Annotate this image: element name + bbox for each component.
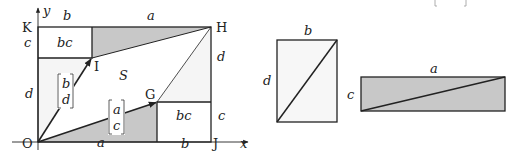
point-J-label: J [211,136,218,151]
rect-ac-top-label: a [430,61,438,76]
vector-bd-matrix: b d [57,73,74,109]
rect-bd-top-label: b [304,23,312,38]
vector-ac-top: a [113,102,121,117]
point-K-label: K [22,20,32,35]
bottom-right-segment-label: b [181,136,189,151]
region-S-label: S [119,68,128,83]
vector-bd-top: b [62,76,70,91]
rect-bd-side-label: d [263,73,271,88]
point-O-label: O [22,136,33,151]
diagram-canvas: y x K H O J I G b a a b c d d c bc bc S … [0,0,511,152]
cropped-fragment [435,0,466,6]
point-I-label: I [94,59,99,74]
left-lower-side-label: d [25,86,33,101]
x-axis-label: x [240,136,248,151]
vector-bd-bottom: d [62,92,70,107]
left-upper-side-label: c [24,35,32,50]
point-H-label: H [216,20,227,35]
right-upper-side-label: d [217,49,225,64]
top-right-segment-label: a [147,8,155,23]
vector-ac-bottom: c [113,118,121,133]
point-G-label: G [145,87,155,102]
bottom-right-box-label: bc [176,108,192,123]
top-left-box-label: bc [57,35,73,50]
rect-bd-figure: b d [263,23,337,122]
top-left-segment-label: b [63,8,71,23]
right-lower-side-label: c [218,108,226,123]
bottom-left-segment-label: a [97,135,105,150]
rect-ac-figure: a c [347,61,505,111]
rect-ac-side-label: c [347,87,355,102]
vector-ac-matrix: a c [108,99,125,135]
main-figure: y x K H O J I G b a a b c d d c bc bc S … [12,3,248,151]
y-axis-label: y [42,3,51,18]
